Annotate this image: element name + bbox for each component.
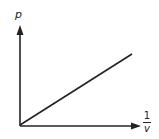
chart-plot xyxy=(0,0,159,139)
data-line xyxy=(20,54,132,125)
x-axis-arrow-icon xyxy=(131,123,141,130)
x-axis-label: 1 v xyxy=(143,111,151,134)
y-axis-arrow-icon xyxy=(17,25,24,35)
y-axis-label: p xyxy=(15,8,22,21)
x-axis-label-denominator: v xyxy=(144,124,150,134)
x-axis-label-numerator: 1 xyxy=(144,111,150,121)
